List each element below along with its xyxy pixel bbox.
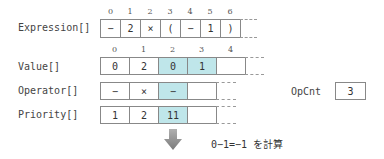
index-label: 4 bbox=[180, 7, 200, 16]
array-cell: ) bbox=[220, 19, 241, 38]
continuation-dash bbox=[240, 19, 257, 20]
array-cell: − bbox=[100, 19, 121, 38]
index-label: 3 bbox=[160, 7, 180, 16]
index-label: 5 bbox=[200, 7, 220, 16]
index-label: 2 bbox=[140, 7, 160, 16]
index-label: 1 bbox=[129, 45, 158, 54]
index-label: 2 bbox=[158, 45, 187, 54]
expression-label: Expression[] bbox=[18, 22, 90, 33]
index-label: 0 bbox=[100, 45, 129, 54]
continuation-dash bbox=[216, 123, 236, 124]
array-cell: − bbox=[100, 82, 130, 100]
priority-label: Priority[] bbox=[18, 109, 78, 120]
array-cell: 2 bbox=[129, 106, 159, 124]
priority-array: 1 2 11 bbox=[101, 106, 217, 124]
array-cell: × bbox=[140, 19, 161, 38]
array-cell: ( bbox=[160, 19, 181, 38]
opcnt-label: OpCnt bbox=[291, 86, 321, 97]
array-cell: 2 bbox=[129, 57, 159, 75]
array-cell: × bbox=[129, 82, 159, 100]
array-cell-highlighted: 1 bbox=[187, 57, 217, 75]
array-cell-highlighted: − bbox=[158, 82, 188, 100]
expression-array: − 2 × ( − 1 ) bbox=[101, 19, 241, 38]
operator-label: Operator[] bbox=[18, 85, 78, 96]
array-cell-highlighted: 0 bbox=[158, 57, 188, 75]
index-label: 3 bbox=[187, 45, 216, 54]
operator-array: − × − bbox=[101, 82, 217, 100]
array-cell: 2 bbox=[120, 19, 141, 38]
continuation-dash bbox=[245, 74, 264, 75]
continuation-dash bbox=[216, 82, 236, 83]
value-array: 0 2 0 1 bbox=[101, 57, 246, 75]
continuation-dash bbox=[216, 106, 236, 107]
array-cell: 1 bbox=[100, 106, 130, 124]
array-cell bbox=[187, 82, 217, 100]
array-cell: 1 bbox=[200, 19, 221, 38]
array-cell: − bbox=[180, 19, 201, 38]
value-label: Value[] bbox=[18, 61, 60, 72]
index-label: 4 bbox=[216, 45, 245, 54]
down-arrow-icon bbox=[164, 129, 182, 150]
continuation-dash bbox=[245, 57, 264, 58]
array-cell bbox=[187, 106, 217, 124]
array-cell bbox=[216, 57, 246, 75]
index-label: 6 bbox=[220, 7, 240, 16]
array-cell: 0 bbox=[100, 57, 130, 75]
opcnt-value-box: 3 bbox=[335, 82, 366, 100]
index-label: 1 bbox=[120, 7, 140, 16]
continuation-dash bbox=[216, 99, 236, 100]
result-text: 0−1=−1 を計算 bbox=[211, 136, 283, 151]
index-label: 0 bbox=[101, 7, 120, 16]
continuation-dash bbox=[240, 37, 257, 38]
array-cell-highlighted: 11 bbox=[158, 106, 188, 124]
